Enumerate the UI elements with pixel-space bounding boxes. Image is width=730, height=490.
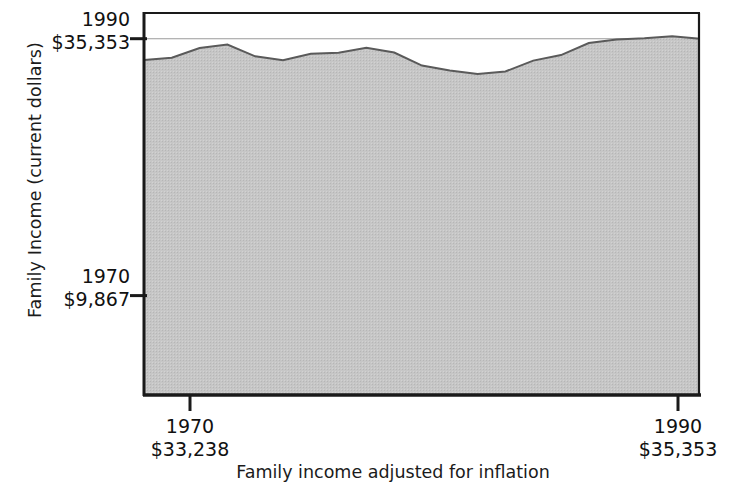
x-tick-label-right: 1990 $35,353 xyxy=(598,415,730,461)
chart-figure: Family Income (current dollars) 1990 $35… xyxy=(0,0,730,490)
x-tick-right-year: 1990 xyxy=(654,415,702,437)
series-adjusted-area xyxy=(144,36,700,395)
x-tick-left-amount: $33,238 xyxy=(151,438,230,460)
y-tick-bottom-amount: $9,867 xyxy=(10,288,130,311)
x-tick-left-year: 1970 xyxy=(166,415,214,437)
x-axis-ticks xyxy=(190,395,678,411)
y-tick-top-year: 1990 xyxy=(10,8,130,31)
y-tick-label-top: 1990 $35,353 xyxy=(10,8,130,54)
y-tick-top-amount: $35,353 xyxy=(10,31,130,54)
x-tick-right-amount: $35,353 xyxy=(639,438,718,460)
x-axis-title: Family income adjusted for inflation xyxy=(0,462,730,482)
x-axis-title-text: Family income adjusted for inflation xyxy=(236,462,550,482)
y-tick-bottom-year: 1970 xyxy=(10,265,130,288)
y-tick-label-bottom: 1970 $9,867 xyxy=(10,265,130,311)
x-tick-label-left: 1970 $33,238 xyxy=(110,415,270,461)
